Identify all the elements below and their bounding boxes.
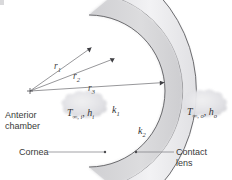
leader-dots: [104, 151, 137, 153]
radius-arrowheads: [87, 48, 165, 86]
outer-fluid-condition-label: T∞, o, ho: [187, 106, 217, 119]
conductivity-label-contact-lens: k2: [138, 125, 146, 138]
radius-line-r3: [30, 83, 165, 92]
anterior-chamber-label: Anterior chamber: [5, 110, 40, 131]
cornea-contact-lens-figure: r1 r2 r3 k1 k2 T∞, i, hi T∞, o, ho Anter…: [0, 0, 232, 180]
leader-dot-contact-lens: [135, 151, 137, 153]
radius-origin-marker: [27, 88, 33, 94]
leader-dot-cornea: [104, 151, 106, 153]
cornea-label: Cornea: [19, 147, 49, 158]
radius-arrows: [30, 48, 165, 92]
radius-label-r3: r3: [88, 83, 95, 95]
conductivity-label-cornea: k1: [112, 104, 120, 117]
inner-fluid-condition-label: T∞, i, hi: [67, 107, 94, 120]
arrowhead-r3: [160, 81, 165, 86]
radius-label-r2: r2: [73, 71, 80, 83]
radius-label-r1: r1: [54, 61, 61, 73]
contact-lens-label: Contact lens: [176, 147, 207, 168]
